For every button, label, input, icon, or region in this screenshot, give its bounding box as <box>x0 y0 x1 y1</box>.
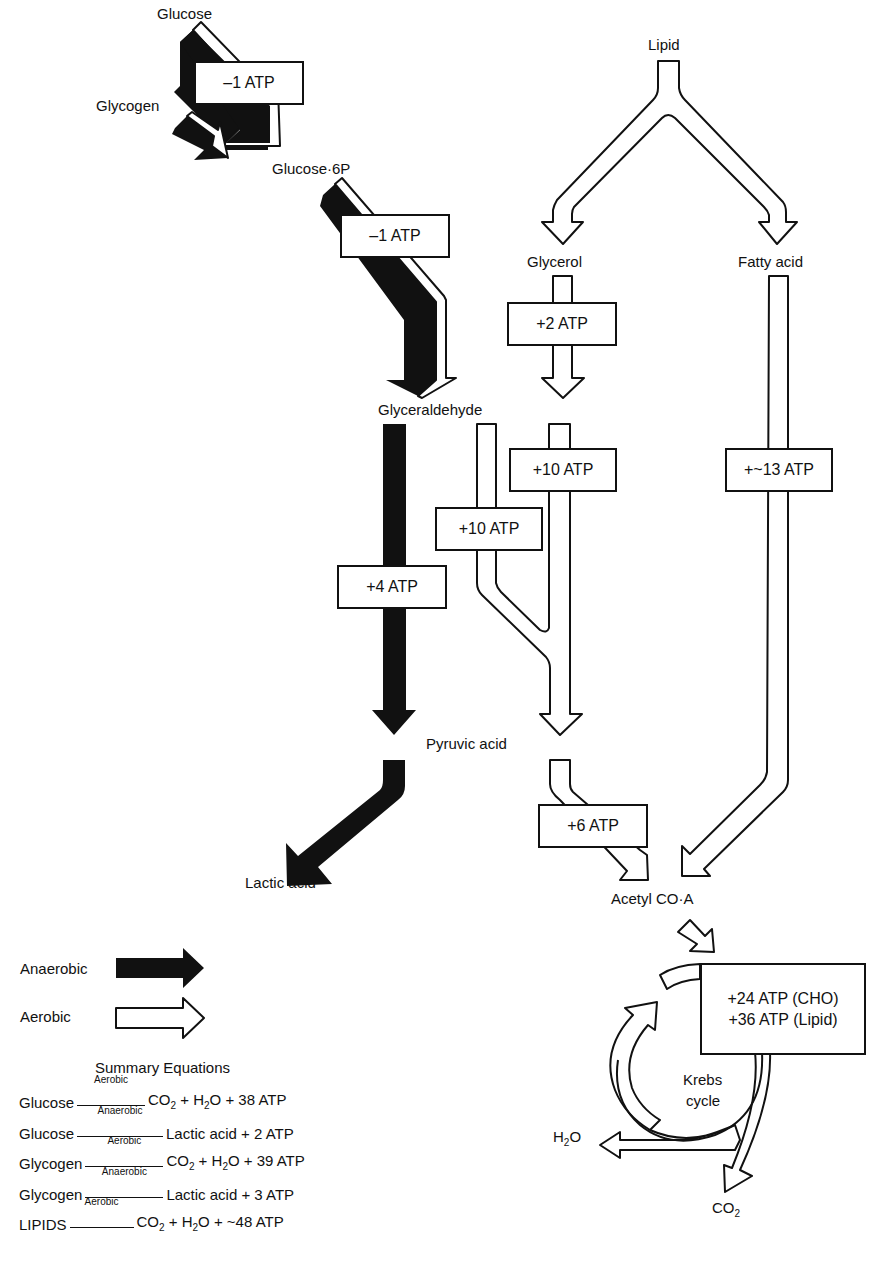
arrow-fatty-acid-to-acetyl <box>682 276 788 876</box>
eq-condition: Anaerobic <box>85 1166 163 1177</box>
arrow-pyruvic-to-lactic <box>286 760 405 886</box>
node-glucose: Glucose <box>157 5 212 22</box>
eq-product: CO2 + H2O + ~48 ATP <box>137 1213 284 1233</box>
eq-product: CO2 + H2O + 38 ATP <box>148 1091 286 1111</box>
arrow-g6p-to-glyceraldehyde <box>320 178 456 398</box>
eq-product: CO2 + H2O + 39 ATP <box>166 1152 304 1172</box>
eq-arrow-line: Aerobic <box>85 1149 163 1167</box>
eq-product: Lactic acid + 2 ATP <box>166 1125 294 1142</box>
krebs-top-arc <box>660 964 700 989</box>
atp-box-aerobic-left: +10 ATP <box>435 507 543 551</box>
atp-box-g6p: –1 ATP <box>340 214 450 258</box>
eq-substrate: Glucose <box>19 1094 74 1111</box>
h2o-h: H <box>553 1128 564 1145</box>
co2-co: CO <box>712 1199 735 1216</box>
equation-row: Glycogen Anaerobic Lactic acid + 3 ATP <box>19 1180 294 1203</box>
atp-box-glucose: –1 ATP <box>194 61 304 105</box>
krebs-atp-cho: +24 ATP (CHO) <box>728 988 839 1009</box>
node-glycogen: Glycogen <box>96 97 159 114</box>
node-glucose-6p: Glucose·6P <box>272 160 350 177</box>
eq-arrow-line: Aerobic <box>77 1088 145 1106</box>
eq-condition: Aerobic <box>70 1196 134 1207</box>
legend-anaerobic-label: Anaerobic <box>20 960 88 977</box>
arrow-acetyl-to-krebs <box>678 920 714 952</box>
node-krebs-line1: Krebs <box>683 1071 722 1088</box>
atp-box-glycerol: +2 ATP <box>507 302 617 346</box>
atp-box-anaerobic-glycolysis: +4 ATP <box>337 565 447 609</box>
node-lactic-acid: Lactic acid <box>245 874 316 891</box>
co2-sub: 2 <box>735 1208 741 1219</box>
atp-box-krebs: +24 ATP (CHO) +36 ATP (Lipid) <box>700 963 866 1055</box>
node-glycerol: Glycerol <box>527 253 582 270</box>
krebs-to-co2 <box>724 1052 770 1192</box>
arrow-lipid-split <box>542 61 797 244</box>
krebs-atp-lipid: +36 ATP (Lipid) <box>728 1009 837 1030</box>
node-acetyl-coa: Acetyl CO·A <box>611 890 694 907</box>
node-krebs-line2: cycle <box>686 1092 720 1109</box>
atp-box-pyruvic: +6 ATP <box>538 804 648 848</box>
eq-condition: Aerobic <box>85 1135 163 1146</box>
h2o-o: O <box>569 1128 581 1145</box>
eq-product: Lactic acid + 3 ATP <box>166 1186 294 1203</box>
node-h2o: H2O <box>553 1128 581 1148</box>
atp-box-aerobic-right: +10 ATP <box>509 448 617 492</box>
legend-aerobic-arrow <box>116 998 204 1038</box>
node-fatty-acid: Fatty acid <box>738 253 803 270</box>
eq-substrate: LIPIDS <box>19 1216 67 1233</box>
eq-condition: Anaerobic <box>77 1105 163 1116</box>
eq-substrate: Glucose <box>19 1125 74 1142</box>
eq-condition: Aerobic <box>77 1074 145 1085</box>
node-co2: CO2 <box>712 1199 740 1219</box>
equation-row: LIPIDS Aerobic CO2 + H2O + ~48 ATP <box>19 1210 284 1233</box>
node-glyceraldehyde: Glyceraldehyde <box>378 401 482 418</box>
eq-arrow-line: Aerobic <box>70 1210 134 1228</box>
krebs-bottom-to-h2o <box>600 1125 740 1158</box>
eq-substrate: Glycogen <box>19 1155 82 1172</box>
atp-box-fatty-acid: +~13 ATP <box>725 448 833 492</box>
node-lipid: Lipid <box>648 36 680 53</box>
node-pyruvic-acid: Pyruvic acid <box>426 735 507 752</box>
legend-anaerobic-arrow <box>116 948 204 988</box>
legend-aerobic-label: Aerobic <box>20 1008 71 1025</box>
